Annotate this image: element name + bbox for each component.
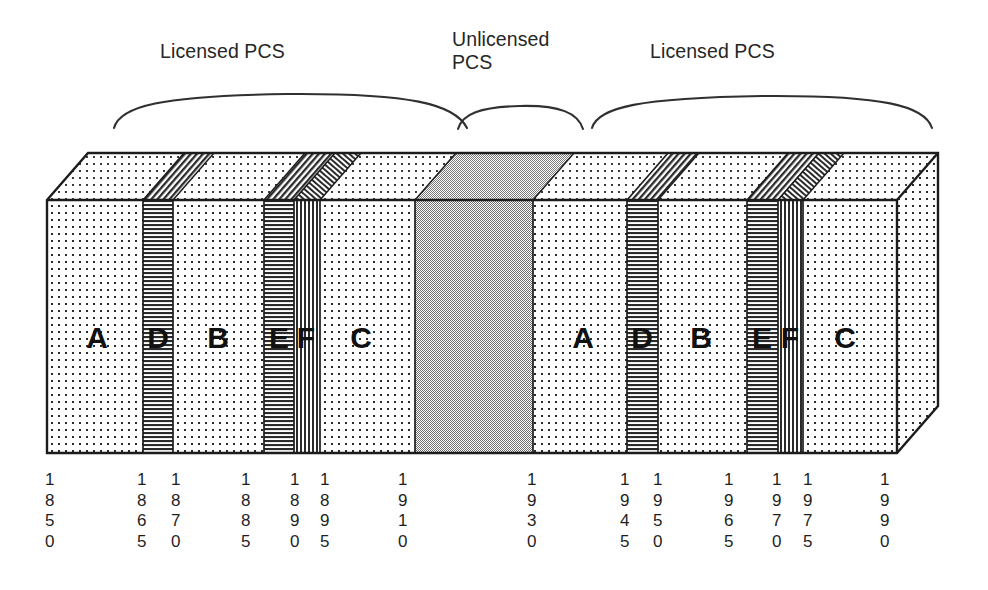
band-unlicensed bbox=[415, 200, 533, 453]
brace-unlicensed bbox=[458, 106, 583, 129]
frequency-tick-1965: 1 9 6 5 bbox=[724, 470, 733, 552]
brace-licensed-right bbox=[592, 96, 932, 128]
frequency-tick-1945: 1 9 4 5 bbox=[620, 470, 629, 552]
box-top-face bbox=[47, 153, 938, 200]
spectrum-allocation-figure: A D B E F C A D B E F C Licensed PCS Unl… bbox=[0, 0, 988, 590]
frequency-tick-1970: 1 9 7 0 bbox=[772, 470, 781, 552]
box-right-face bbox=[897, 153, 938, 453]
frequency-tick-1910: 1 9 1 0 bbox=[398, 470, 407, 552]
frequency-tick-1895: 1 8 9 5 bbox=[320, 470, 329, 552]
frequency-tick-1950: 1 9 5 0 bbox=[653, 470, 662, 552]
frequency-tick-1865: 1 8 6 5 bbox=[137, 470, 146, 552]
group-label-unlicensed: Unlicensed PCS bbox=[452, 28, 549, 74]
band-label-C-left: C bbox=[350, 321, 372, 354]
frequency-tick-1975: 1 9 7 5 bbox=[803, 470, 812, 552]
frequency-tick-1885: 1 8 8 5 bbox=[241, 470, 250, 552]
band-label-E-right: E bbox=[752, 321, 772, 354]
band-label-C-right: C bbox=[834, 321, 856, 354]
group-label-licensed-right: Licensed PCS bbox=[650, 40, 775, 63]
band-label-B-right: B bbox=[690, 321, 712, 354]
frequency-tick-1990: 1 9 9 0 bbox=[880, 470, 889, 552]
group-label-licensed-left: Licensed PCS bbox=[160, 40, 285, 63]
band-label-F-right: F bbox=[781, 321, 799, 354]
band-label-A-right: A bbox=[572, 321, 594, 354]
band-label-D-right: D bbox=[631, 321, 653, 354]
frequency-tick-1890: 1 8 9 0 bbox=[290, 470, 299, 552]
band-label-F-left: F bbox=[297, 321, 315, 354]
band-label-A-left: A bbox=[86, 321, 108, 354]
band-label-E-left: E bbox=[269, 321, 289, 354]
brace-licensed-left bbox=[114, 94, 467, 128]
frequency-tick-1870: 1 8 7 0 bbox=[171, 470, 180, 552]
band-label-D-left: D bbox=[147, 321, 169, 354]
frequency-tick-1850: 1 8 5 0 bbox=[45, 470, 54, 552]
band-label-B-left: B bbox=[207, 321, 229, 354]
spectrum-box-diagram: A D B E F C A D B E F C bbox=[0, 0, 988, 590]
group-braces bbox=[114, 94, 932, 129]
frequency-tick-1930: 1 9 3 0 bbox=[527, 470, 536, 552]
